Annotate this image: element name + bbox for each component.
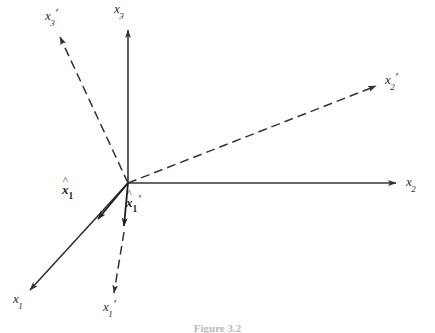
axis-label-x3-prime: x3′ bbox=[45, 9, 58, 26]
axis-line-x3-prime bbox=[60, 37, 128, 183]
axis-line-x1 bbox=[30, 183, 128, 290]
coordinate-axes-diagram bbox=[0, 0, 435, 333]
figure-container: x3 x2 x1 x3′ x2′ x1′ ˄x1 ˄x1′ Figure 3.2 bbox=[0, 0, 435, 333]
unit-vector-label-x1-hat-prime: ˄x1′ bbox=[126, 196, 140, 213]
axis-label-x3: x3 bbox=[114, 2, 124, 19]
axis-label-x2: x2 bbox=[406, 175, 416, 192]
axis-label-x1: x1 bbox=[13, 292, 23, 309]
figure-caption: Figure 3.2 bbox=[0, 322, 435, 333]
unit-vector-label-x1-hat: ˄x1 bbox=[62, 183, 73, 200]
axis-label-x2-prime: x2′ bbox=[385, 73, 398, 90]
unit-vector-x1 bbox=[98, 183, 128, 219]
axis-label-x1-prime: x1′ bbox=[103, 300, 116, 317]
axis-line-x2-prime bbox=[128, 86, 376, 183]
axis-line-x1-prime bbox=[114, 232, 124, 293]
